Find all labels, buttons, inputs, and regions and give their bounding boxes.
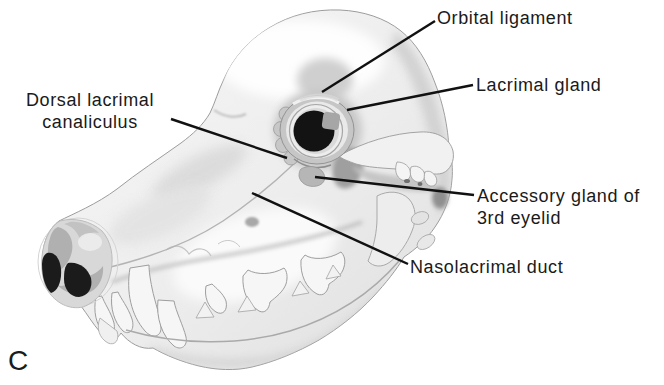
skull (38, 10, 453, 370)
label-dorsal-lacrimal-canaliculus: Dorsal lacrimal canaliculus (10, 89, 170, 133)
label-accessory-gland-line1: Accessory gland of (477, 185, 640, 207)
figure-panel: Orbital ligament Lacrimal gland Dorsal l… (0, 0, 664, 385)
label-dorsal-lacrimal-canaliculus-line2: canaliculus (10, 111, 170, 133)
panel-letter: C (8, 346, 28, 376)
label-accessory-gland: Accessory gland of 3rd eyelid (477, 185, 640, 229)
label-lacrimal-gland: Lacrimal gland (476, 74, 601, 96)
label-dorsal-lacrimal-canaliculus-line1: Dorsal lacrimal (10, 89, 170, 111)
label-orbital-ligament: Orbital ligament (437, 7, 573, 29)
label-accessory-gland-line2: 3rd eyelid (477, 207, 640, 229)
pupil-notch (321, 111, 340, 130)
label-nasolacrimal-duct: Nasolacrimal duct (410, 256, 563, 278)
